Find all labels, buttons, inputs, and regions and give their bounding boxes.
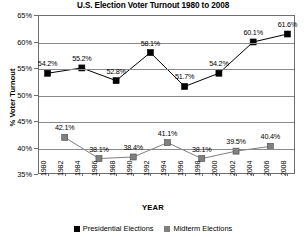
x-axis-tick-label: 1998: [193, 161, 202, 176]
y-axis-tick-label: 40%: [17, 143, 32, 152]
x-axis-tick-label: 2006: [261, 161, 270, 176]
data-point-label: 54.2%: [209, 59, 228, 68]
y-axis-tick-label: 50%: [17, 90, 32, 99]
data-point-marker: [62, 134, 68, 140]
data-point-marker: [284, 31, 290, 37]
x-axis-tick-label: 2004: [244, 161, 253, 176]
y-axis: % Voter Turnout 65%60%55%50%45%40%35%: [0, 15, 38, 174]
gridline: [39, 149, 294, 150]
data-point-label: 39.5%: [226, 137, 245, 146]
data-point-label: 42.1%: [55, 123, 74, 132]
legend-label: Midterm Elections: [173, 224, 232, 233]
y-axis-tick-label: 55%: [17, 64, 32, 73]
x-axis-tick-label: 2002: [227, 161, 236, 176]
x-axis-tick-label: 1992: [141, 161, 150, 176]
data-point-label: 60.1%: [243, 28, 262, 37]
gridline: [39, 96, 294, 97]
data-point-label: 61.6%: [278, 20, 297, 29]
x-axis-tick-label: 1984: [73, 161, 82, 176]
x-axis-tick-label: 1982: [56, 161, 65, 176]
x-axis-tick-label: 1996: [176, 161, 185, 176]
x-axis-tick-label: 1994: [159, 161, 168, 176]
legend-swatch-icon: [74, 226, 80, 232]
x-axis-tick-label: 2000: [210, 161, 219, 176]
x-axis-tick-label: 1990: [124, 161, 133, 176]
legend-label: Presidential Elections: [83, 224, 154, 233]
legend-item[interactable]: Midterm Elections: [164, 224, 232, 233]
chart-container: U.S. Election Voter Turnout 1980 to 2008…: [0, 0, 306, 237]
y-axis-tick-label: 45%: [17, 117, 32, 126]
x-axis-tick-label: 1986: [90, 161, 99, 176]
data-point-marker: [130, 154, 136, 160]
x-axis-tick-label: 1988: [107, 161, 116, 176]
data-point-marker: [45, 70, 51, 76]
gridline: [39, 43, 294, 44]
plot-area: 54.2%55.2%52.8%58.1%51.7%54.2%60.1%61.6%…: [38, 15, 295, 174]
data-point-label: 55.2%: [72, 54, 91, 63]
data-point-label: 41.1%: [158, 129, 177, 138]
data-point-marker: [113, 78, 119, 84]
data-point-label: 40.4%: [261, 132, 280, 141]
y-axis-tick-label: 35%: [17, 170, 32, 179]
x-axis-tick-label: 2008: [278, 161, 287, 176]
legend-item[interactable]: Presidential Elections: [74, 224, 154, 233]
y-axis-tick: [34, 174, 38, 175]
data-point-label: 38.4%: [124, 143, 143, 152]
data-point-label: 58.1%: [141, 39, 160, 48]
x-axis-title: YEAR: [0, 203, 306, 212]
data-point-label: 54.2%: [38, 59, 57, 68]
data-point-marker: [165, 140, 171, 146]
data-point-label: 51.7%: [175, 72, 194, 81]
data-point-label: 38.1%: [89, 145, 108, 154]
chart-legend: Presidential ElectionsMidterm Elections: [0, 224, 306, 233]
legend-swatch-icon: [164, 226, 170, 232]
y-axis-title: % Voter Turnout: [8, 38, 17, 158]
gridline: [39, 122, 294, 123]
chart-title: U.S. Election Voter Turnout 1980 to 2008: [0, 1, 306, 10]
data-point-marker: [216, 70, 222, 76]
data-point-marker: [147, 50, 153, 56]
data-point-marker: [79, 65, 85, 71]
x-axis-tick-label: 1980: [39, 161, 48, 176]
data-point-label: 52.8%: [106, 67, 125, 76]
data-point-label: 38.1%: [192, 145, 211, 154]
gridline: [39, 69, 294, 70]
y-axis-tick-label: 65%: [17, 11, 32, 20]
data-point-marker: [182, 83, 188, 89]
y-axis-tick-label: 60%: [17, 37, 32, 46]
